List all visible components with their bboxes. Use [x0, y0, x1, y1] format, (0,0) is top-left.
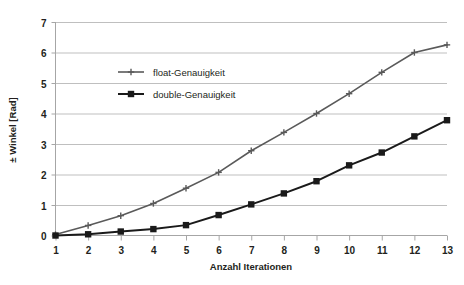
data-point-marker [118, 228, 124, 234]
data-point-marker [313, 178, 319, 184]
x-tick-label: 11 [377, 245, 388, 256]
y-tick-label: 5 [41, 79, 47, 90]
x-tick-label: 3 [118, 245, 124, 256]
x-tick-label: 4 [151, 245, 157, 256]
y-tick-label: 7 [41, 18, 47, 29]
x-tick-label: 12 [409, 245, 421, 256]
data-point-marker [215, 212, 221, 218]
x-tick-label: 9 [314, 245, 320, 256]
chart-container: 01234567 12345678910111213 ± Winkel [Rad… [0, 0, 464, 285]
x-tick-label: 13 [442, 245, 454, 256]
data-point-marker [411, 133, 417, 139]
data-point-marker [444, 117, 450, 123]
data-point-marker [52, 232, 58, 238]
data-point-marker [183, 222, 189, 228]
x-tick-label: 5 [184, 245, 190, 256]
data-point-marker [150, 226, 156, 232]
y-tick-label: 4 [41, 109, 47, 120]
y-tick-label: 0 [41, 231, 47, 242]
x-tick-label: 10 [344, 245, 356, 256]
x-tick-label: 8 [282, 245, 288, 256]
data-point-marker [379, 149, 385, 155]
y-tick-label: 6 [41, 48, 47, 59]
x-tick-label: 7 [249, 245, 255, 256]
y-tick-label: 3 [41, 140, 47, 151]
chart-background [0, 0, 464, 285]
x-tick-label: 6 [216, 245, 222, 256]
y-axis-title: ± Winkel [Rad] [7, 97, 18, 162]
x-axis-title-label: Anzahl Iterationen [210, 261, 293, 272]
data-point-marker [128, 91, 134, 97]
x-tick-label: 2 [86, 245, 92, 256]
data-point-marker [248, 201, 254, 207]
legend-label: double-Genauigkeit [153, 89, 236, 100]
y-axis-title-label: ± Winkel [Rad] [7, 97, 18, 162]
legend-label: float-Genauigkeit [153, 67, 225, 78]
line-chart: 01234567 12345678910111213 ± Winkel [Rad… [0, 0, 464, 285]
data-point-marker [346, 162, 352, 168]
y-tick-label: 1 [41, 201, 47, 212]
data-point-marker [281, 190, 287, 196]
data-point-marker [85, 231, 91, 237]
y-tick-label: 2 [41, 170, 47, 181]
x-tick-label: 1 [53, 245, 59, 256]
